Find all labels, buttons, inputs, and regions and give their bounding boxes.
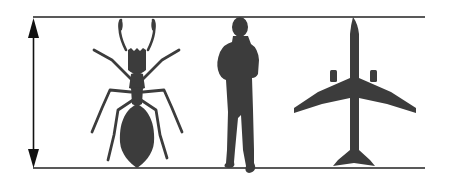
- height-arrow-icon: [28, 18, 39, 168]
- airplane-silhouette-icon: [294, 17, 416, 166]
- ant-silhouette-icon: [92, 19, 182, 168]
- human-silhouette-icon: [217, 17, 259, 173]
- scale-comparison-diagram: [0, 0, 449, 191]
- diagram-canvas: [0, 0, 449, 191]
